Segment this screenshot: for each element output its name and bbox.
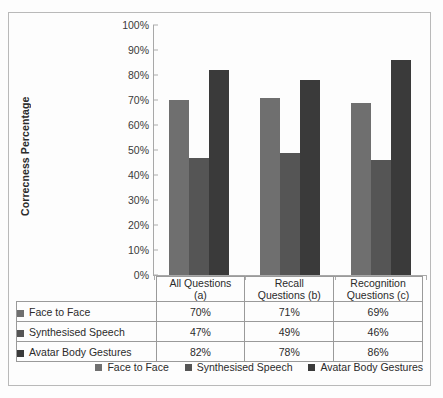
bar-group — [260, 25, 320, 275]
bar[interactable] — [300, 80, 320, 275]
y-axis-tick-label: 20% — [128, 219, 149, 231]
bar[interactable] — [391, 60, 411, 275]
table-column-header-line: Recall — [245, 277, 333, 289]
data-table: All Questions(a)RecallQuestions (b)Recog… — [16, 276, 423, 362]
series-swatch-icon — [17, 330, 24, 337]
table-cell-value: 46% — [334, 322, 423, 342]
table-row: Face to Face70%71%69% — [17, 302, 423, 322]
y-axis-tick-label: 70% — [128, 94, 149, 106]
chart-figure: Correcness Percentage 100%90%80%70%60%50… — [0, 0, 443, 398]
y-axis-tick-label: 80% — [128, 69, 149, 81]
table-cell-value: 49% — [245, 322, 334, 342]
y-axis-tick-label: 100% — [122, 19, 149, 31]
plot-area: 100%90%80%70%60%50%40%30%20%10%0% — [108, 20, 426, 282]
table-row-label-text: Synthesised Speech — [29, 326, 125, 338]
table-cell-value: 71% — [245, 302, 334, 322]
bar-group — [351, 25, 411, 275]
bar[interactable] — [280, 153, 300, 276]
table-row-label-text: Avatar Body Gestures — [29, 346, 132, 358]
legend-label: Synthesised Speech — [197, 361, 293, 373]
y-axis-tick-label: 90% — [128, 44, 149, 56]
y-axis-tick-label: 50% — [128, 144, 149, 156]
bar-slot — [209, 25, 229, 275]
table-column-header-line: All Questions — [157, 277, 245, 289]
legend-item[interactable]: Face to Face — [95, 361, 168, 373]
table-row: Avatar Body Gestures82%78%86% — [17, 342, 423, 362]
bar-slot — [300, 25, 320, 275]
table-cell-value: 82% — [156, 342, 245, 362]
table-column-header: RecallQuestions (b) — [245, 277, 334, 302]
bar[interactable] — [189, 158, 209, 276]
bar[interactable] — [351, 103, 371, 276]
table-cell-value: 70% — [156, 302, 245, 322]
y-axis-tick-label: 60% — [128, 119, 149, 131]
bar-slot — [371, 25, 391, 275]
bar-slot — [391, 25, 411, 275]
bar-slot — [260, 25, 280, 275]
table-row: Synthesised Speech47%49%46% — [17, 322, 423, 342]
table-column-header-line: Questions (b) — [245, 289, 333, 301]
table-row-label: Avatar Body Gestures — [17, 342, 157, 362]
legend-label: Avatar Body Gestures — [320, 361, 423, 373]
table-column-header-line: Questions (c) — [334, 289, 422, 301]
legend-swatch-icon — [95, 364, 102, 371]
bar-slot — [351, 25, 371, 275]
legend-label: Face to Face — [107, 361, 168, 373]
bar-slot — [189, 25, 209, 275]
bar-group — [169, 25, 229, 275]
legend-item[interactable]: Avatar Body Gestures — [308, 361, 423, 373]
bar-slot — [280, 25, 300, 275]
y-axis-tick-label: 10% — [128, 244, 149, 256]
legend-swatch-icon — [185, 364, 192, 371]
bars-container — [154, 25, 426, 275]
chart-legend: Face to FaceSynthesised SpeechAvatar Bod… — [16, 361, 423, 373]
legend-item[interactable]: Synthesised Speech — [185, 361, 293, 373]
y-axis-tick-label: 30% — [128, 194, 149, 206]
series-swatch-icon — [17, 310, 24, 317]
table-column-header: RecognitionQuestions (c) — [334, 277, 423, 302]
bar-slot — [169, 25, 189, 275]
x-axis-separator — [426, 275, 427, 280]
table-column-header-line: (a) — [157, 289, 245, 301]
bar[interactable] — [260, 98, 280, 276]
y-axis-tick-label: 40% — [128, 169, 149, 181]
table-cell-value: 78% — [245, 342, 334, 362]
table-header-row: All Questions(a)RecallQuestions (b)Recog… — [17, 277, 423, 302]
table-row-label: Face to Face — [17, 302, 157, 322]
table-column-header: All Questions(a) — [156, 277, 245, 302]
table-cell-value: 47% — [156, 322, 245, 342]
table-column-header-line: Recognition — [334, 277, 422, 289]
legend-swatch-icon — [308, 364, 315, 371]
table-row-label: Synthesised Speech — [17, 322, 157, 342]
table-cell-value: 86% — [334, 342, 423, 362]
y-axis-ticks: 100%90%80%70%60%50%40%30%20%10%0% — [108, 20, 154, 282]
table-header-corner — [17, 277, 157, 302]
y-axis-title: Correcness Percentage — [14, 76, 36, 236]
bar[interactable] — [371, 160, 391, 275]
series-swatch-icon — [17, 350, 24, 357]
bar[interactable] — [169, 100, 189, 275]
bar[interactable] — [209, 70, 229, 275]
table-row-label-text: Face to Face — [29, 306, 90, 318]
table-cell-value: 69% — [334, 302, 423, 322]
